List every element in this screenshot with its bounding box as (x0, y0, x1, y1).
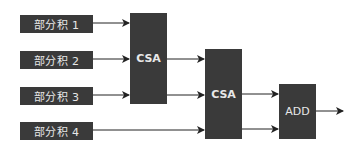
partial-product-4-label: 部分积 4 (34, 123, 80, 139)
csa-block-1-label: CSA (136, 52, 161, 65)
partial-product-1: 部分积 1 (20, 15, 93, 33)
partial-product-4: 部分积 4 (20, 122, 93, 140)
partial-product-3-label: 部分积 3 (34, 88, 80, 104)
partial-product-2: 部分积 2 (20, 51, 93, 69)
csa-block-2-label: CSA (211, 88, 236, 101)
partial-product-1-label: 部分积 1 (34, 16, 80, 32)
partial-product-3: 部分积 3 (20, 87, 93, 105)
csa-block-2: CSA (205, 49, 242, 139)
partial-product-2-label: 部分积 2 (34, 52, 80, 68)
add-block: ADD (279, 84, 316, 139)
add-block-label: ADD (285, 105, 309, 118)
csa-block-1: CSA (130, 13, 167, 104)
